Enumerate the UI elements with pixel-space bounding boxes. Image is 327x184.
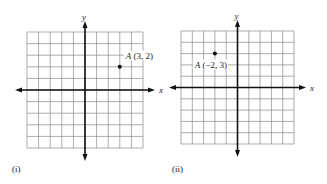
- x-axis-label: x: [309, 83, 314, 93]
- x-axis-label: x: [158, 85, 163, 95]
- axes: [169, 20, 306, 157]
- point-label: A (−2, 3): [194, 60, 227, 70]
- point-a: [118, 65, 122, 69]
- arrow-left-icon: [169, 85, 176, 90]
- caption-i: (i): [12, 164, 21, 174]
- arrow-right-icon: [299, 85, 306, 90]
- arrow-down-icon: [83, 154, 88, 161]
- arrow-down-icon: [235, 150, 240, 157]
- y-axis-label: y: [81, 12, 86, 22]
- arrow-up-icon: [235, 20, 240, 27]
- arrow-right-icon: [148, 88, 155, 93]
- panel-i: xyA (3, 2): [15, 12, 163, 161]
- y-axis-label: y: [234, 11, 239, 21]
- point-a: [213, 52, 217, 56]
- caption-ii: (ii): [172, 164, 183, 174]
- axes: [15, 21, 155, 161]
- panel-ii: xyA (−2, 3): [169, 11, 314, 157]
- arrow-up-icon: [83, 21, 88, 28]
- point-label: A (3, 2): [125, 51, 153, 61]
- arrow-left-icon: [15, 88, 22, 93]
- figure: xyA (3, 2) xyA (−2, 3) (i) (ii): [0, 0, 327, 184]
